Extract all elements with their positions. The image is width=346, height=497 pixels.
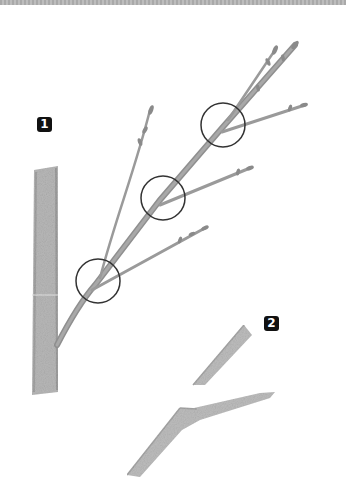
buds xyxy=(137,40,309,244)
label-badge-1: 1 xyxy=(37,117,52,132)
label-badge-2: 2 xyxy=(264,316,279,331)
pruning-illustration xyxy=(0,0,346,497)
cut-branch-detail xyxy=(127,325,275,477)
trunk xyxy=(32,166,58,395)
side-shoots xyxy=(92,50,305,290)
